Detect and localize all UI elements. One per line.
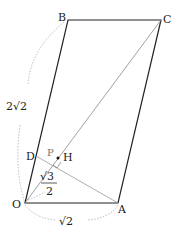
label-O: O [12,198,21,211]
point-H [57,157,60,160]
dotted-arc-OB [28,22,64,85]
dotted-arc-OB-lower [18,125,25,203]
geometry-diagram: B C O A D P H 2√2 √2 √3 2 [0,0,181,235]
label-P: P [47,147,54,158]
label-OH-denominator: 2 [46,185,53,198]
dotted-arc-OA-right [88,205,118,220]
label-OA-length: √2 [59,215,73,228]
label-OH-numerator: √3 [40,170,54,183]
dotted-arc-OA-left [25,205,55,220]
label-D: D [26,150,35,163]
diagram-canvas: B C O A D P H 2√2 √2 √3 2 [0,0,181,235]
label-H: H [63,151,73,164]
label-OB-length: 2√2 [6,100,27,113]
right-angle-mark [53,162,61,168]
label-C: C [163,13,171,26]
label-A: A [117,203,127,216]
label-B: B [58,11,66,24]
